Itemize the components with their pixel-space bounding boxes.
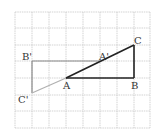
label-c-prime: C' bbox=[18, 94, 28, 105]
label-c: C bbox=[134, 35, 142, 46]
grid-diagram: A B C A' B' C' bbox=[0, 0, 158, 138]
label-a-prime: A' bbox=[98, 51, 109, 62]
label-b: B bbox=[131, 80, 138, 91]
label-b-prime: B' bbox=[22, 51, 32, 62]
label-a: A bbox=[62, 80, 71, 91]
